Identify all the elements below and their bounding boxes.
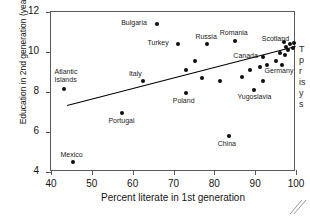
side-caption-line: T: [299, 44, 310, 55]
data-point-label: China: [218, 140, 236, 148]
data-point-label: Turkey: [148, 39, 169, 47]
x-axis-tick: 70: [174, 170, 175, 175]
data-point: [193, 59, 197, 63]
side-caption-line: s: [299, 99, 310, 110]
data-point: [205, 42, 209, 46]
x-axis-tick: 50: [92, 170, 93, 175]
data-point: [280, 63, 284, 67]
side-caption-line: p: [299, 55, 310, 66]
data-point: [252, 88, 256, 92]
data-point-label: Mexico: [60, 151, 82, 159]
data-point: [200, 76, 204, 80]
data-point: [291, 46, 295, 50]
data-point: [141, 79, 145, 83]
x-axis-tick: 100: [296, 170, 297, 175]
data-point: [283, 53, 287, 57]
x-axis-tick-label: 100: [284, 178, 308, 189]
data-point: [261, 79, 265, 83]
x-axis-tick-label: 40: [39, 178, 63, 189]
side-caption-line: r: [299, 66, 310, 77]
data-point: [233, 39, 237, 43]
x-axis-tick-label: 80: [202, 178, 226, 189]
data-point: [240, 75, 244, 79]
truncated-side-caption: Tprisys: [299, 44, 310, 110]
data-point-label: Canada: [233, 52, 258, 60]
y-axis-tick: 12: [46, 12, 51, 13]
data-point-label: Poland: [173, 97, 195, 105]
data-point-label: Atlantic Islands: [54, 68, 77, 84]
x-axis-tick: 80: [214, 170, 215, 175]
data-point: [62, 87, 66, 91]
x-axis-tick-label: 60: [121, 178, 145, 189]
x-axis-tick: 90: [255, 170, 256, 175]
side-caption-line: is: [299, 77, 310, 88]
data-point: [176, 42, 180, 46]
y-axis-tick-label: 12: [28, 5, 39, 16]
data-point: [71, 160, 75, 164]
data-point: [184, 91, 188, 95]
side-caption-line: y: [299, 88, 310, 99]
y-axis-tick: 10: [46, 52, 51, 53]
data-point: [274, 59, 278, 63]
data-point-label: Germany: [265, 67, 294, 75]
data-point: [286, 48, 290, 52]
y-axis-label: Education in 2nd generation (years): [18, 0, 28, 132]
data-point: [184, 68, 188, 72]
data-point: [258, 65, 262, 69]
plot-area: 4681012405060708090100MexicoAtlantic Isl…: [50, 11, 295, 171]
y-axis-tick-label: 8: [33, 85, 39, 96]
data-point: [278, 51, 282, 55]
y-axis-tick-label: 10: [28, 45, 39, 56]
y-axis-tick: 8: [46, 92, 51, 93]
y-axis-tick: 6: [46, 132, 51, 133]
data-point-label: Romania: [220, 29, 248, 37]
x-axis-tick: 40: [51, 170, 52, 175]
data-point: [218, 79, 222, 83]
chart-figure: Education in 2nd generation (years) Perc…: [0, 0, 310, 216]
x-axis-label: Percent literate in 1st generation: [50, 192, 296, 203]
data-point: [227, 134, 231, 138]
page-corner-mark: [288, 196, 310, 216]
data-point: [261, 55, 265, 59]
x-axis-tick-label: 90: [243, 178, 267, 189]
x-axis-tick-label: 70: [162, 178, 186, 189]
data-point-label: Bulgaria: [121, 19, 147, 27]
data-point-label: Yugoslavia: [238, 93, 272, 101]
data-point-label: Russia: [195, 33, 216, 41]
data-point-label: Italy: [129, 70, 142, 78]
data-point: [155, 22, 159, 26]
data-point: [292, 41, 296, 45]
data-point-label: Portugal: [108, 117, 134, 125]
y-axis-tick-label: 6: [33, 125, 39, 136]
x-axis-tick: 60: [133, 170, 134, 175]
x-axis-tick-label: 50: [80, 178, 104, 189]
data-point: [120, 111, 124, 115]
data-point: [282, 40, 286, 44]
data-point: [248, 68, 252, 72]
y-axis-tick-label: 4: [33, 165, 39, 176]
